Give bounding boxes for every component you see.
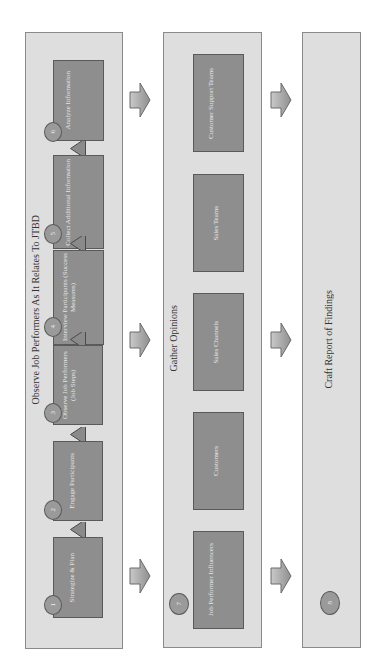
step-number-2: 2	[44, 500, 62, 520]
step-number-1: 1	[44, 595, 62, 615]
item-label: Customer Support Teams	[207, 68, 231, 139]
step-number-3: 3	[44, 403, 62, 423]
step-label-6: Analyze Information	[64, 71, 94, 130]
step-label-3: Observe Job Performers (Job Steps)	[61, 346, 95, 424]
flow-arrow-icon	[270, 82, 292, 118]
item-label: Sales Teams	[212, 206, 226, 241]
panel-title-gather-opinions: Gather Opinions	[168, 305, 179, 371]
item-box-customers: Customers	[193, 412, 244, 510]
panel-title-craft-report: Craft Report of Findings	[323, 290, 334, 389]
item-label: Sales Channels	[212, 321, 226, 364]
item-label: Job Performer Influencers	[207, 543, 231, 616]
item-box-customer-support-teams: Customer Support Teams	[193, 54, 244, 152]
step-number-4: 4	[44, 317, 62, 337]
flow-arrow-icon	[270, 558, 292, 594]
flow-arrow-icon	[129, 558, 151, 594]
step-label-1: Strategize & Plan	[68, 553, 88, 602]
step-label-5: Collect Additional Information	[64, 159, 94, 246]
step-number-6: 6	[44, 122, 62, 142]
panel-title-observe: Observe Job Performers As It Relates To …	[30, 215, 41, 404]
item-box-sales-teams: Sales Teams	[193, 174, 244, 272]
flow-arrow-icon	[129, 82, 151, 118]
item-box-job-performer-influencers: Job Performer Influencers	[193, 531, 244, 629]
step-number-5: 5	[44, 224, 62, 244]
step-label-4: Interview Participants (Success Measures…	[61, 251, 97, 344]
flow-arrow-icon	[129, 322, 151, 358]
item-box-sales-channels: Sales Channels	[193, 293, 244, 391]
flow-arrow-icon	[270, 322, 292, 358]
step-label-2: Engage Participants	[68, 453, 88, 509]
step-number-8: 8	[320, 591, 340, 615]
item-label: Customers	[212, 446, 226, 476]
step-number-7: 7	[169, 593, 189, 615]
